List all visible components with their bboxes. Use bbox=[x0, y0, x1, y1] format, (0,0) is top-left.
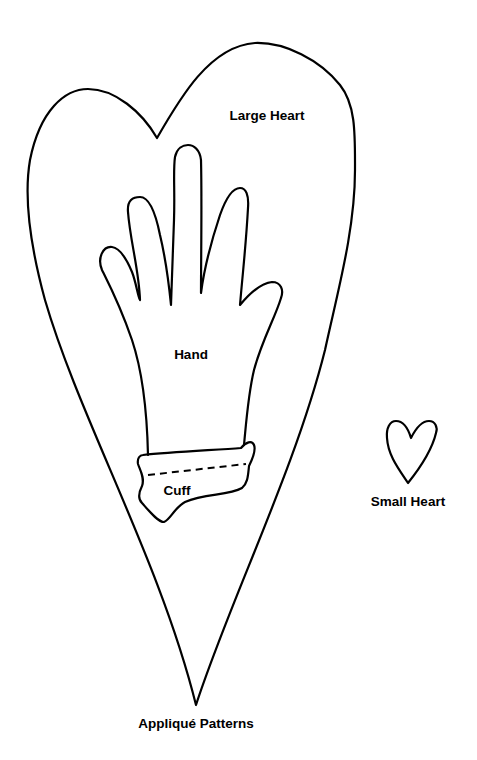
cuff-fold-line bbox=[148, 464, 246, 475]
page-title: Appliqué Patterns bbox=[138, 717, 254, 731]
hand-shape bbox=[100, 145, 282, 455]
large-heart-shape bbox=[28, 43, 355, 705]
hand-label: Hand bbox=[174, 348, 208, 362]
large-heart-label: Large Heart bbox=[229, 109, 304, 123]
small-heart-label: Small Heart bbox=[371, 495, 445, 509]
small-heart-shape bbox=[387, 421, 437, 483]
cuff-label: Cuff bbox=[164, 484, 191, 498]
pattern-sheet: Large Heart Hand Cuff Small Heart Appliq… bbox=[0, 0, 477, 760]
cuff-shape bbox=[138, 442, 255, 522]
